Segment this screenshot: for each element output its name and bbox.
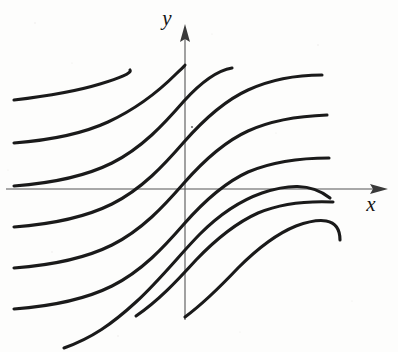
y-axis-label: y [160,6,172,30]
paper-background [0,0,398,352]
scan-speckle-artifact [191,126,193,128]
figure-canvas: y x [0,0,398,352]
x-axis-label: x [365,192,376,216]
integral-curves-figure: y x [0,0,398,352]
